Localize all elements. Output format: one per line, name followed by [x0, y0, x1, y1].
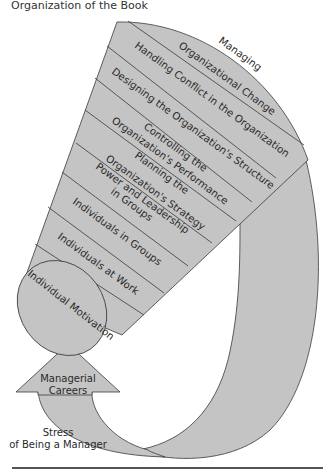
svg-text:Careers: Careers	[49, 385, 88, 396]
svg-text:Managerial: Managerial	[40, 373, 96, 384]
svg-text:Stress: Stress	[43, 427, 74, 438]
svg-text:of Being a Manager: of Being a Manager	[9, 439, 108, 450]
book-organization-diagram: Managing Organizational Change Handling …	[0, 0, 336, 472]
bottom-rule	[12, 467, 323, 469]
